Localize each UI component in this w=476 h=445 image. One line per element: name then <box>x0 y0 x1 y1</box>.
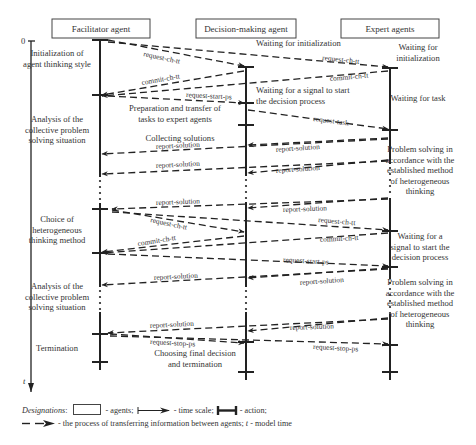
facilitator-state: Analysis of thecollective problemsolving… <box>25 281 90 312</box>
state-line: Collecting solutions <box>146 133 216 143</box>
agent-label: Expert agents <box>365 24 415 34</box>
agent-facilitator: Facilitator agent <box>52 19 150 370</box>
state-line: initialization <box>396 53 440 63</box>
facilitator-state: Choice ofheterogeneousthinking method <box>29 214 86 245</box>
lifeline-dot <box>99 180 101 182</box>
decision-state: Waiting for initialization <box>256 38 341 48</box>
lifeline-dot <box>99 198 101 200</box>
expert-state: Waiting forinitialization <box>396 42 440 63</box>
message-commit-ch-tt: commit-ch-tt <box>102 233 244 252</box>
state-line: solving situation <box>28 135 86 145</box>
lifeline-dot <box>245 296 247 298</box>
state-line: Problem solving in <box>387 144 453 154</box>
lifeline-dot <box>245 179 247 181</box>
message-report-solution: report-solution <box>248 318 388 332</box>
message-arrow <box>108 254 388 266</box>
lifeline-dot <box>99 192 101 194</box>
state-line: thinking method <box>29 235 86 245</box>
expert-state: Waiting for asignal to start thedecision… <box>391 231 450 262</box>
decision-state: Preparation and transfer oftasks to expe… <box>129 103 221 124</box>
state-line: agent thinking style <box>23 59 91 69</box>
message-label: request-stop-ps <box>313 342 359 353</box>
message-request-ch-tt: request-ch-tt <box>112 210 244 232</box>
message-label: report-solution <box>156 196 201 207</box>
state-line: of heterogeneous <box>391 309 451 319</box>
lifeline-dot <box>245 290 247 292</box>
expert-state: Waiting for task <box>390 93 446 103</box>
message-label: request-ch-tt <box>322 53 361 66</box>
agent-lifelines: Facilitator agentDecision-making agentEx… <box>52 19 439 380</box>
state-line: solving situation <box>28 302 86 312</box>
state-line: decision process <box>392 252 449 262</box>
time-axis-arrow-icon <box>28 383 34 392</box>
message-report-solution: report-solution <box>112 196 388 209</box>
message-label: commit-ch-tt <box>329 71 369 83</box>
lifeline-dot <box>99 308 101 310</box>
state-line: Preparation and transfer of <box>129 103 221 113</box>
legend: Designations: - agents; - time scale; - … <box>22 404 472 430</box>
legend-model-time-text: - model time <box>250 419 292 428</box>
message-report-solution: report-solution <box>248 160 388 175</box>
message-request-start-ps: request-start-ps <box>108 90 244 103</box>
lifeline-dot <box>99 186 101 188</box>
facilitator-state: Termination <box>36 343 79 353</box>
facilitator-state: Initialization ofagent thinking style <box>23 48 91 69</box>
lifeline-dot <box>245 302 247 304</box>
decision-state: Choosing final decisionand termination <box>154 348 236 369</box>
message-request-stop-ps: request-stop-ps <box>110 334 244 348</box>
state-line: heterogeneous <box>32 225 82 235</box>
message-report-solution: report-solution <box>248 268 388 287</box>
lifeline-dot <box>245 191 247 193</box>
legend-agents-text: - agents; <box>106 406 134 415</box>
state-line: Analysis of the <box>31 281 83 291</box>
time-axis-label: t <box>23 376 26 386</box>
state-line: collective problem <box>25 125 90 135</box>
message-label: report-solution <box>283 203 328 214</box>
expert-state: Problem solving inaccordance with theest… <box>386 277 455 329</box>
message-label: request-ch-tt <box>143 49 182 66</box>
agent-label: Facilitator agent <box>72 24 131 34</box>
state-line: Analysis of the <box>31 114 83 124</box>
lifeline-dot <box>99 302 101 304</box>
message-label: request-start-ps <box>186 90 232 101</box>
agent-label: Decision-making agent <box>204 24 288 34</box>
state-line: accordance with the <box>386 288 455 298</box>
legend-transfer-text: - the process of transferring informatio… <box>58 419 244 428</box>
message-request-start-ps: request-start-ps <box>108 254 388 266</box>
lifeline-dot <box>389 191 391 193</box>
state-line: Choice of <box>40 214 74 224</box>
lifeline-dot <box>245 185 247 187</box>
message-label: request-task <box>313 114 350 127</box>
message-label: report-solution <box>154 271 199 282</box>
state-line: Waiting for task <box>390 93 446 103</box>
message-label: request-ch-tt <box>150 215 189 232</box>
time-origin-label: 0 <box>21 36 25 46</box>
legend-time-scale-text: - time scale; <box>174 406 214 415</box>
state-line: signal to start the <box>391 242 450 252</box>
action-tick-icon <box>216 406 238 415</box>
message-label: report-solution <box>300 275 345 287</box>
state-line: established method <box>387 165 454 175</box>
sequence-diagram: 0t Facilitator agentDecision-making agen… <box>0 0 476 445</box>
legend-designations: Designations <box>22 406 65 415</box>
lifeline-dot <box>245 197 247 199</box>
agent-decision: Decision-making agent <box>196 19 296 380</box>
expert-state: Problem solving inaccordance with theest… <box>386 144 455 196</box>
lifeline-dot <box>99 296 101 298</box>
legend-action-text: - action; <box>240 406 267 415</box>
state-line: and termination <box>168 359 223 369</box>
info-transfer-arrow-icon <box>22 419 56 428</box>
legend-agent-box-icon <box>73 404 101 415</box>
decision-state: Waiting for a signal to startthe decisio… <box>256 85 350 106</box>
state-line: the decision process <box>256 96 326 106</box>
legend-t-symbol: t <box>246 419 248 428</box>
time-axis: 0t <box>21 36 35 392</box>
diagram-svg: 0t Facilitator agentDecision-making agen… <box>0 0 476 400</box>
message-label: request-start-ps <box>283 255 329 266</box>
state-line: collective problem <box>25 292 90 302</box>
state-line: thinking <box>406 186 435 196</box>
message-label: report-solution <box>156 159 201 170</box>
message-report-solution: report-solution <box>108 319 388 333</box>
message-label: commit-ch-tt <box>320 233 360 244</box>
lifeline-dot <box>245 308 247 310</box>
